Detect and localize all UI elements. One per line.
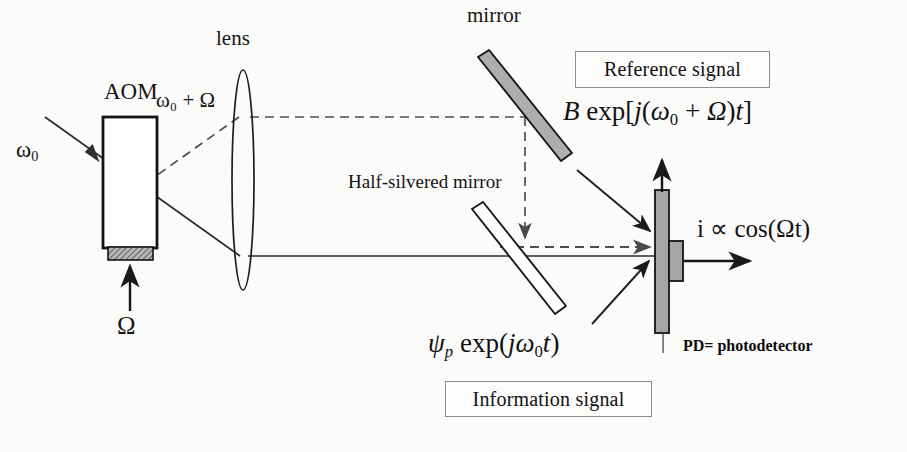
half-silvered-mirror-label: Half-silvered mirror xyxy=(348,172,502,191)
aom-body xyxy=(103,117,157,248)
information-exp: exp xyxy=(460,328,499,358)
reference-amplitude: B xyxy=(563,96,580,126)
reference-j: j xyxy=(634,96,642,126)
reference-Omega: Ω xyxy=(707,96,727,126)
photocurrent-Omega: Ω xyxy=(776,215,795,242)
information-signal-box: Information signal xyxy=(445,381,652,417)
photocurrent-t: t xyxy=(795,215,802,242)
reference-bracket-open: [ xyxy=(625,96,634,126)
photodetector-bar xyxy=(655,190,669,333)
reference-bracket-close: ] xyxy=(743,96,752,126)
optical-heterodyne-figure: AOM lens mirror Half-silvered mirror ω0 … xyxy=(0,0,907,452)
aom-transducer xyxy=(108,247,153,260)
information-omega: ω xyxy=(515,328,534,358)
information-field-equation: ψp exp(jω0t) xyxy=(428,330,559,360)
reference-paren-open: ( xyxy=(642,96,651,126)
photocurrent-prop: ∝ xyxy=(710,215,728,242)
pd-note-separator: | xyxy=(661,330,665,353)
reference-signal-box: Reference signal xyxy=(575,51,770,88)
diffracted-frequency-label: ω₀ + Ω xyxy=(156,90,215,111)
information-psi-sub: p xyxy=(445,342,453,361)
reference-omega-sub: 0 xyxy=(670,110,678,129)
half-silvered-mirror-element xyxy=(472,202,566,314)
diffracted-beam-dashed xyxy=(146,117,239,183)
information-signal-pointer xyxy=(592,261,649,324)
omega0-subscript: 0 xyxy=(31,148,38,164)
reference-t: t xyxy=(735,96,743,126)
pd-legend-note: PD= photodetector xyxy=(683,337,813,355)
mirror-label: mirror xyxy=(467,5,521,26)
reference-plus: + xyxy=(685,96,700,126)
information-psi: ψ xyxy=(428,328,445,358)
reference-omega: ω xyxy=(651,96,670,126)
information-paren-open: ( xyxy=(499,328,508,358)
photocurrent-close: ) xyxy=(802,215,810,242)
photocurrent-equation: i ∝ cos(Ωt) xyxy=(697,216,810,241)
information-paren-close: ) xyxy=(550,328,559,358)
lens-label: lens xyxy=(216,28,250,49)
photocurrent-cos: cos( xyxy=(734,215,776,242)
omega0-symbol: ω xyxy=(16,137,31,162)
reference-exp: exp xyxy=(586,96,625,126)
reference-field-equation: B exp[j(ω0 + Ω)t] xyxy=(563,98,752,128)
reference-signal-pointer xyxy=(577,170,650,231)
aom-label: AOM xyxy=(104,80,158,103)
omega0-input-label: ω0 xyxy=(16,138,38,163)
lens-element xyxy=(232,70,254,290)
photodetector-tab xyxy=(669,241,683,281)
omega-drive-label: Ω xyxy=(117,313,136,338)
information-omega-sub: 0 xyxy=(534,342,542,361)
mirror-element xyxy=(478,50,572,161)
photocurrent-i: i xyxy=(697,215,704,242)
